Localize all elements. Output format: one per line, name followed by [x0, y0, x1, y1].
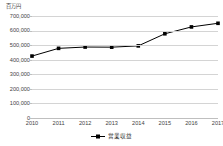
gridline-300000 [32, 74, 218, 75]
x-tick-label-2014: 2014 [125, 120, 151, 126]
data-point-marker [163, 32, 167, 36]
data-point-marker [190, 25, 194, 29]
y-tick-label: 300,000 [0, 71, 30, 77]
x-tick-label-2013: 2013 [99, 120, 125, 126]
line-marker-square-icon [91, 133, 105, 140]
x-tick-label-2017: 2017 [205, 120, 223, 126]
data-point-marker [216, 21, 220, 25]
x-tick-label-2012: 2012 [72, 120, 98, 126]
gridline-700000 [32, 16, 218, 17]
y-tick-label: 400,000 [0, 57, 30, 63]
chart-legend: 営業収益 [0, 132, 223, 140]
gridline-600000 [32, 31, 218, 32]
legend-label-operating-revenue: 営業収益 [108, 132, 132, 140]
y-tick-label: 100,000 [0, 100, 30, 106]
y-tick-label: 700,000 [0, 13, 30, 19]
plot-area [32, 16, 218, 118]
y-tick-label: 200,000 [0, 86, 30, 92]
gridline-0 [32, 118, 218, 119]
gridline-500000 [32, 45, 218, 46]
x-tick-label-2011: 2011 [46, 120, 72, 126]
y-tick-label: 500,000 [0, 42, 30, 48]
operating-revenue-line-chart: 百万円 0100,000200,000300,000400,000500,000… [0, 0, 223, 146]
gridline-200000 [32, 89, 218, 90]
gridline-400000 [32, 60, 218, 61]
x-tick-label-2010: 2010 [19, 120, 45, 126]
data-point-marker [57, 47, 61, 51]
data-point-marker [30, 54, 34, 58]
gridline-100000 [32, 103, 218, 104]
x-tick-label-2015: 2015 [152, 120, 178, 126]
x-tick-label-2016: 2016 [178, 120, 204, 126]
y-tick-label: 600,000 [0, 27, 30, 33]
